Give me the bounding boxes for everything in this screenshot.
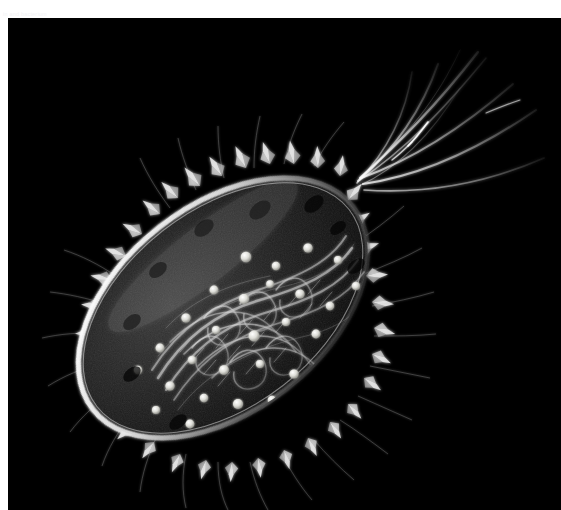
bacterium-figure-panel xyxy=(8,18,561,510)
figure-caption: in and bacterium xyxy=(3,11,47,17)
caption-strip: in and bacterium xyxy=(0,0,561,18)
bacterium-illustration xyxy=(8,18,561,510)
